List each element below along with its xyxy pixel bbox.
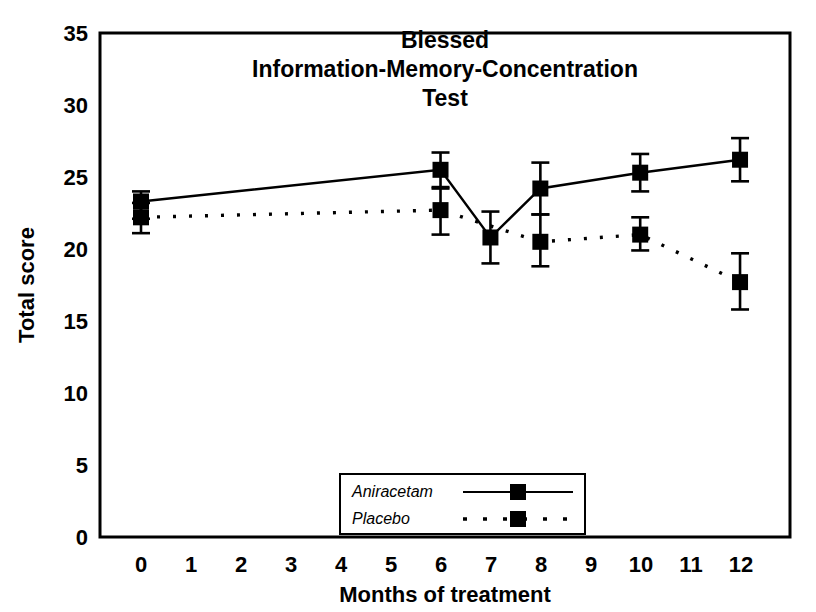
data-point <box>531 163 549 215</box>
chart-canvas: Blessed Information-Memory-Concentration… <box>0 0 816 612</box>
data-marker <box>133 193 149 209</box>
data-point <box>631 154 649 191</box>
data-marker <box>433 162 449 178</box>
chart-legend[interactable]: Aniracetam Placebo <box>340 474 585 534</box>
chart-title-line-1: Blessed <box>401 27 489 53</box>
y-tick-label-20: 20 <box>64 237 88 262</box>
data-marker <box>433 202 449 218</box>
data-point <box>481 212 499 264</box>
y-tick-label-10: 10 <box>64 381 88 406</box>
chart-figure: Blessed Information-Memory-Concentration… <box>0 0 816 612</box>
legend-label-aniracetam: Aniracetam <box>351 483 433 500</box>
data-point <box>432 187 450 235</box>
data-marker <box>632 165 648 181</box>
chart-title-line-2: Information-Memory-Concentration <box>252 56 638 82</box>
y-tick-label-30: 30 <box>64 93 88 118</box>
data-marker <box>732 152 748 168</box>
y-tick-label-5: 5 <box>76 453 88 478</box>
y-tick-label-25: 25 <box>64 165 88 190</box>
data-marker <box>532 181 548 197</box>
data-point <box>531 214 549 266</box>
y-tick-label-15: 15 <box>64 309 88 334</box>
x-tick-label-7: 7 <box>485 552 497 577</box>
x-tick-label-1: 1 <box>185 552 197 577</box>
data-marker <box>532 234 548 250</box>
x-tick-label-12: 12 <box>729 552 753 577</box>
data-point <box>631 217 649 250</box>
x-tick-label-11: 11 <box>679 552 702 577</box>
x-tick-label-5: 5 <box>385 552 397 577</box>
y-tick-label-35: 35 <box>64 21 88 46</box>
series-placebo <box>132 187 749 309</box>
data-marker <box>732 274 748 290</box>
data-point <box>432 153 450 189</box>
data-point <box>731 138 749 181</box>
x-tick-label-3: 3 <box>285 552 297 577</box>
x-axis-title: Months of treatment <box>339 582 551 607</box>
x-tick-label-0: 0 <box>135 552 147 577</box>
x-tick-label-9: 9 <box>585 552 597 577</box>
x-tick-label-6: 6 <box>435 552 447 577</box>
data-point <box>731 253 749 309</box>
data-marker <box>482 229 498 245</box>
x-tick-label-2: 2 <box>235 552 247 577</box>
y-axis-title: Total score <box>14 227 39 343</box>
y-tick-label-0: 0 <box>76 525 88 550</box>
x-tick-label-8: 8 <box>535 552 547 577</box>
x-tick-label-10: 10 <box>629 552 653 577</box>
legend-label-placebo: Placebo <box>352 510 410 527</box>
chart-title-line-3: Test <box>422 85 468 111</box>
data-marker <box>632 227 648 243</box>
x-tick-label-4: 4 <box>335 552 348 577</box>
